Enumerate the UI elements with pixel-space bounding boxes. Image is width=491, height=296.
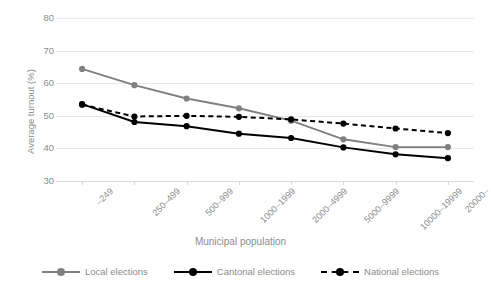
gridline [56, 181, 474, 182]
data-point [445, 155, 451, 161]
data-point [393, 151, 399, 157]
data-point [131, 119, 137, 125]
legend-key-icon [321, 267, 359, 277]
data-point [340, 121, 346, 127]
data-point [79, 102, 85, 108]
x-tick-label: 250–499 [151, 186, 183, 218]
x-tick-label: 1000–1999 [258, 186, 297, 225]
legend-key-icon [42, 267, 80, 277]
x-tick-label: 2000–4999 [310, 186, 349, 225]
x-axis-ticks: –249250–499500–9991000–19992000–49995000… [0, 186, 481, 232]
x-tickmark [187, 181, 188, 185]
legend-marker-dot [57, 268, 65, 276]
data-point [236, 105, 242, 111]
data-point [445, 144, 451, 150]
data-point [236, 114, 242, 120]
y-tick-label: 50 [24, 111, 54, 120]
series-line-cantonal-elections [82, 104, 448, 158]
data-point [184, 95, 190, 101]
x-tickmark [291, 181, 292, 185]
y-axis-title: Average turnout (%) [14, 46, 28, 156]
y-tick-label: 30 [24, 176, 54, 185]
x-tick-label: 5000–9999 [363, 186, 402, 225]
chart-legend: Local electionsCantonal electionsNationa… [0, 266, 481, 277]
data-point [340, 136, 346, 142]
x-tickmark [134, 181, 135, 185]
series-layer [56, 18, 474, 181]
legend-marker-dot [336, 268, 344, 276]
data-point [131, 113, 137, 119]
legend-label: National elections [364, 266, 439, 277]
data-point [445, 130, 451, 136]
legend-label: Cantonal elections [217, 266, 295, 277]
x-tickmark [396, 181, 397, 185]
x-tick-label: 10000–19999 [418, 186, 464, 232]
data-point [236, 131, 242, 137]
x-tickmark [239, 181, 240, 185]
data-point [393, 144, 399, 150]
data-point [131, 82, 137, 88]
data-point [288, 135, 294, 141]
y-tick-label: 80 [24, 13, 54, 22]
x-tick-label: 500–999 [203, 186, 235, 218]
legend-key-icon [174, 267, 212, 277]
legend-item[interactable]: Local elections [42, 266, 148, 277]
x-axis-title: Municipal population [0, 236, 481, 247]
x-tickmark [82, 181, 83, 185]
data-point [288, 116, 294, 122]
data-point [79, 66, 85, 72]
plot-area [56, 18, 474, 181]
y-tick-label: 40 [24, 143, 54, 152]
legend-label: Local elections [85, 266, 148, 277]
x-tick-label: 20000– [463, 186, 491, 214]
y-tick-label: 70 [24, 46, 54, 55]
x-tick-label: –249 [94, 186, 115, 207]
data-point [393, 125, 399, 131]
y-tick-label: 60 [24, 78, 54, 87]
x-tickmark [343, 181, 344, 185]
data-point [184, 113, 190, 119]
legend-marker-dot [189, 268, 197, 276]
legend-item[interactable]: National elections [321, 266, 439, 277]
data-point [340, 144, 346, 150]
data-point [184, 123, 190, 129]
x-tickmark [448, 181, 449, 185]
legend-item[interactable]: Cantonal elections [174, 266, 295, 277]
